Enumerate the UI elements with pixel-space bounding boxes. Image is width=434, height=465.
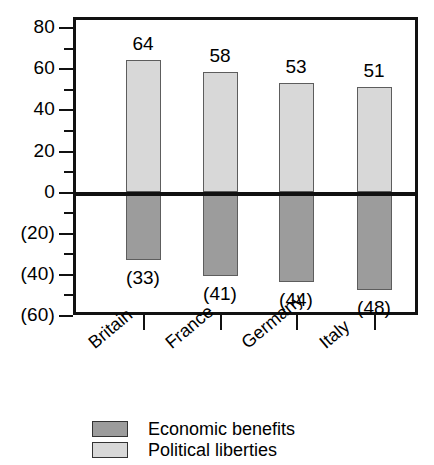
bar-political-liberties [203, 72, 238, 191]
legend-label-economic-benefits: Economic benefits [148, 420, 295, 438]
y-tick-major [59, 109, 73, 111]
bar-political-liberties [126, 60, 161, 192]
x-tick [143, 315, 145, 330]
chart-legend: Economic benefits Political liberties [92, 418, 295, 460]
y-tick-major [59, 151, 73, 153]
y-tick-label: 60 [33, 58, 55, 77]
legend-swatch-political-liberties [92, 442, 128, 458]
y-axis: 806040200(20)(40)(60) [0, 0, 73, 465]
bar-value-label-economic-benefits: (33) [108, 268, 178, 287]
y-tick-major [59, 233, 73, 235]
bar-political-liberties [357, 87, 392, 192]
bar-value-label-economic-benefits: (41) [185, 284, 255, 303]
x-tick [296, 315, 298, 330]
bar-value-label-political-liberties: 51 [344, 61, 404, 80]
y-tick-label: (20) [20, 223, 55, 242]
bar-value-label-economic-benefits: (48) [339, 298, 409, 317]
y-tick-minor [64, 48, 73, 50]
y-tick-minor [64, 171, 73, 173]
y-tick-major [59, 274, 73, 276]
legend-item-political-liberties: Political liberties [92, 439, 295, 460]
y-tick-label: 20 [33, 141, 55, 160]
bar-value-label-political-liberties: 53 [266, 57, 326, 76]
x-tick [220, 315, 222, 330]
bar-political-liberties [279, 83, 314, 192]
y-tick-minor [64, 294, 73, 296]
bar-value-label-political-liberties: 58 [190, 46, 250, 65]
y-tick-label: (40) [20, 264, 55, 283]
bar-value-label-economic-benefits: (44) [261, 290, 331, 309]
bar-economic-benefits [126, 192, 161, 260]
y-tick-major [59, 192, 73, 194]
bar-value-label-political-liberties: 64 [113, 34, 173, 53]
legend-label-political-liberties: Political liberties [148, 441, 277, 459]
zero-baseline [73, 192, 418, 196]
y-tick-label: (60) [20, 305, 55, 324]
y-tick-label: 40 [33, 99, 55, 118]
legend-swatch-economic-benefits [92, 421, 128, 437]
bar-chart: 806040200(20)(40)(60) 64(33)58(41)53(44)… [0, 0, 434, 465]
y-tick-minor [64, 130, 73, 132]
y-tick-major [59, 27, 73, 29]
x-category-label: Italy [316, 317, 353, 352]
bar-economic-benefits [279, 192, 314, 282]
bar-economic-benefits [357, 192, 392, 291]
y-tick-minor [64, 212, 73, 214]
bar-economic-benefits [203, 192, 238, 276]
y-tick-label: 80 [33, 17, 55, 36]
y-tick-label: 0 [44, 182, 55, 201]
legend-item-economic-benefits: Economic benefits [92, 418, 295, 439]
y-tick-minor [64, 89, 73, 91]
y-tick-major [59, 68, 73, 70]
y-tick-minor [64, 253, 73, 255]
y-tick-major [59, 315, 73, 317]
